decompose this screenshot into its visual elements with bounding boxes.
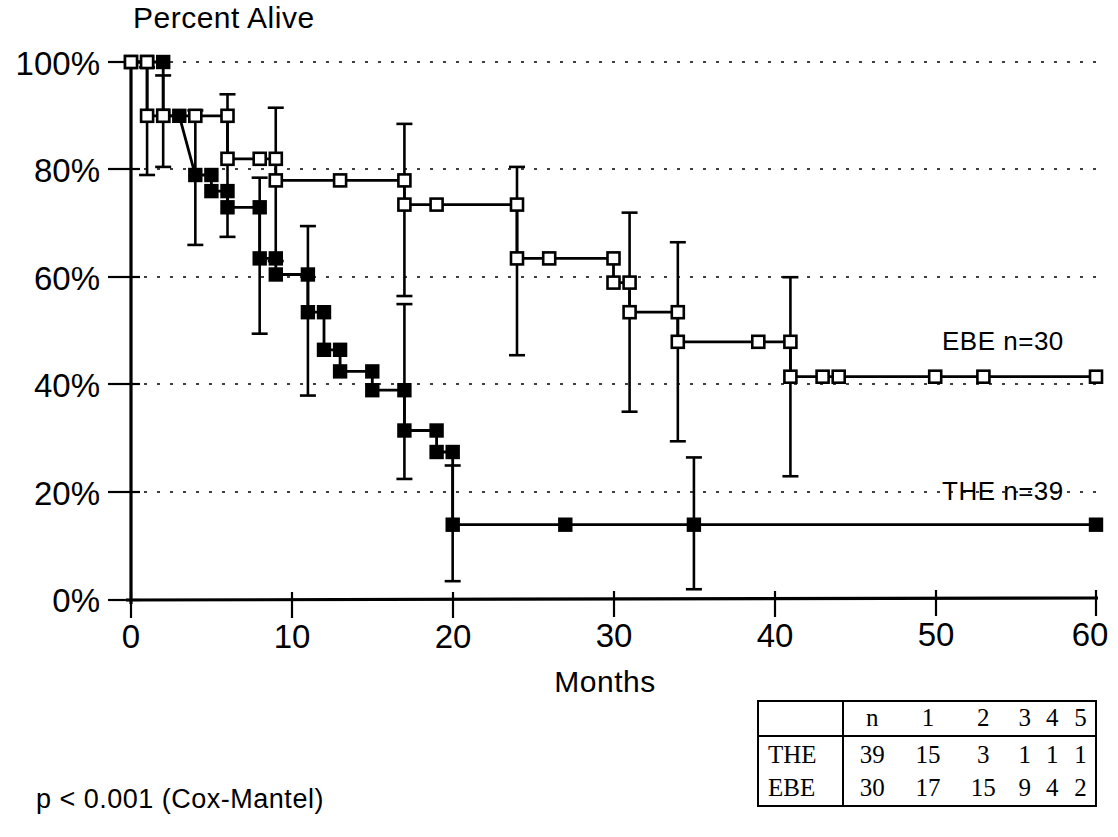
risk-the-y4: 1 — [1039, 736, 1067, 772]
series-label-ebe: EBE n=30 — [942, 326, 1064, 356]
risk-table-head: n 1 2 3 4 5 — [758, 701, 1096, 736]
y-axis-ticks — [108, 62, 140, 600]
risk-table-header-y5: 5 — [1066, 701, 1096, 736]
x-axis-tick-labels: 0 10 20 30 40 50 60 — [122, 616, 1109, 655]
data-point-open-square — [222, 110, 234, 122]
risk-ebe-y5: 2 — [1066, 772, 1096, 806]
data-point-open-square — [431, 199, 443, 211]
risk-table-row-label-the: THE — [758, 736, 843, 772]
data-point-open-square — [334, 174, 346, 186]
data-point-open-square — [398, 174, 410, 186]
data-point-open-square — [752, 336, 764, 348]
data-point-open-square — [398, 199, 410, 211]
data-point-open-square — [784, 371, 796, 383]
data-point-open-square — [511, 199, 523, 211]
p-value-annotation: p < 0.001 (Cox-Mantel) — [36, 784, 324, 814]
risk-the-n: 39 — [843, 736, 900, 772]
risk-the-y3: 1 — [1011, 736, 1039, 772]
data-point-open-square — [624, 277, 636, 289]
x-ticklabel-0: 0 — [122, 618, 140, 655]
data-point-open-square — [784, 336, 796, 348]
data-point-open-square — [624, 306, 636, 318]
data-point-filled-square — [366, 384, 378, 396]
risk-table-row-ebe: EBE 30 17 15 9 4 2 — [758, 772, 1096, 806]
data-point-open-square — [608, 277, 620, 289]
data-point-filled-square — [559, 519, 571, 531]
data-point-filled-square — [254, 252, 266, 264]
data-point-open-square — [254, 153, 266, 165]
y-ticklabel-80: 80% — [34, 152, 100, 189]
data-point-open-square — [141, 110, 153, 122]
risk-table-header-y4: 4 — [1039, 701, 1067, 736]
data-point-open-square — [817, 371, 829, 383]
data-point-open-square — [125, 56, 137, 68]
data-point-filled-square — [334, 365, 346, 377]
risk-the-y2: 3 — [956, 736, 1011, 772]
x-ticklabel-20: 20 — [435, 618, 472, 655]
data-point-filled-square — [1090, 519, 1102, 531]
series-the — [125, 56, 1102, 589]
data-point-open-square — [833, 371, 845, 383]
data-point-open-square — [511, 252, 523, 264]
data-point-open-square — [189, 110, 201, 122]
data-point-open-square — [929, 371, 941, 383]
series-label-the: THE n=39 — [942, 476, 1064, 506]
x-ticklabel-50: 50 — [918, 616, 955, 653]
risk-table-header-row: n 1 2 3 4 5 — [758, 701, 1096, 736]
risk-the-y1: 15 — [900, 736, 955, 772]
y-axis-tick-labels: 100% 80% 60% 40% 20% 0% — [16, 45, 100, 619]
data-point-open-square — [270, 174, 282, 186]
data-point-open-square — [672, 306, 684, 318]
kaplan-meier-figure: Percent Alive 100% 80% 60% 40% — [0, 0, 1118, 837]
data-point-open-square — [672, 336, 684, 348]
risk-ebe-n: 30 — [843, 772, 900, 806]
data-point-filled-square — [688, 519, 700, 531]
risk-ebe-y4: 4 — [1039, 772, 1067, 806]
risk-table-row-label-ebe: EBE — [758, 772, 843, 806]
x-ticklabel-30: 30 — [596, 617, 633, 654]
risk-table-header-n: n — [843, 701, 900, 736]
y-ticklabel-0: 0% — [52, 582, 100, 619]
x-axis-line — [126, 598, 1098, 600]
data-point-filled-square — [302, 306, 314, 318]
data-point-open-square — [270, 153, 282, 165]
data-point-filled-square — [205, 185, 217, 197]
risk-ebe-y3: 9 — [1011, 772, 1039, 806]
x-ticklabel-40: 40 — [757, 617, 794, 654]
data-point-filled-square — [431, 425, 443, 437]
risk-table-corner — [758, 701, 843, 736]
risk-table: n 1 2 3 4 5 THE 39 15 3 1 1 1 EBE 30 17 — [757, 700, 1097, 807]
data-point-open-square — [608, 252, 620, 264]
x-axis-label: Months — [554, 665, 655, 698]
series-layer — [125, 56, 1102, 589]
risk-table-header-y3: 3 — [1011, 701, 1039, 736]
data-point-filled-square — [318, 344, 330, 356]
y-ticklabel-20: 20% — [34, 475, 100, 512]
risk-the-y5: 1 — [1066, 736, 1096, 772]
risk-table-body: THE 39 15 3 1 1 1 EBE 30 17 15 9 4 2 — [758, 736, 1096, 806]
data-point-filled-square — [398, 425, 410, 437]
data-point-filled-square — [447, 446, 459, 458]
data-point-filled-square — [157, 56, 169, 68]
data-point-filled-square — [447, 519, 459, 531]
risk-table-row-the: THE 39 15 3 1 1 1 — [758, 736, 1096, 772]
risk-table-header-y1: 1 — [900, 701, 955, 736]
risk-table-header-y2: 2 — [956, 701, 1011, 736]
data-point-open-square — [141, 56, 153, 68]
data-point-filled-square — [270, 269, 282, 281]
data-point-filled-square — [318, 306, 330, 318]
data-point-filled-square — [431, 446, 443, 458]
y-ticklabel-40: 40% — [34, 367, 100, 404]
data-point-filled-square — [398, 384, 410, 396]
y-ticklabel-100: 100% — [16, 45, 100, 82]
x-ticklabel-60: 60 — [1072, 616, 1109, 653]
series-ebe — [125, 56, 1102, 476]
data-point-filled-square — [302, 269, 314, 281]
data-point-open-square — [1090, 371, 1102, 383]
data-point-filled-square — [366, 365, 378, 377]
y-ticklabel-60: 60% — [34, 260, 100, 297]
data-point-filled-square — [205, 169, 217, 181]
risk-ebe-y1: 17 — [900, 772, 955, 806]
risk-ebe-y2: 15 — [956, 772, 1011, 806]
chart-title: Percent Alive — [133, 1, 315, 34]
